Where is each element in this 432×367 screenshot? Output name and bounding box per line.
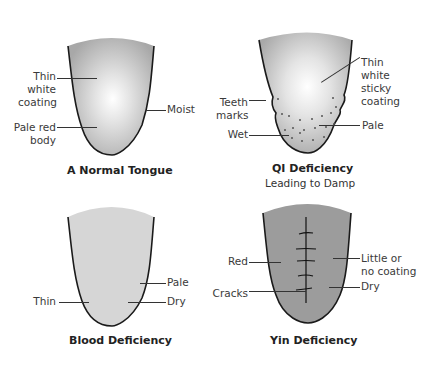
diagram-title: QI Deficiency [272,162,353,175]
leader-line [249,262,281,263]
label-dry: Dry [167,295,186,308]
leader-line [57,78,97,79]
leader-line [329,287,360,288]
leader-line [319,125,360,126]
label-cracks: Cracks [210,287,248,300]
label-moist: Moist [167,103,195,116]
diagram-title: Yin Deficiency [270,334,357,347]
leader-line [145,110,166,111]
label-thin: Thin [20,295,56,308]
leader-line [128,302,166,303]
qi-deficiency-panel: Teeth marks Wet Thin white sticky coatin… [216,0,432,183]
label-wet: Wet [221,128,248,141]
leader-line [57,127,97,128]
leader-line [249,291,306,292]
yin-deficiency-panel: Red Cracks Little or no coating Dry Yin … [216,183,432,367]
label-thin-white-sticky-coating: Thin white sticky coating [361,56,400,108]
leader-line [140,283,166,284]
diagram-title: Blood Deficiency [69,334,172,347]
label-thin-white-coating: Thin white coating [18,70,56,109]
label-red: Red [224,255,248,268]
label-little-or-no-coating: Little or no coating [361,252,416,278]
label-pale: Pale [362,119,384,132]
normal-tongue-panel: Thin white coating Pale red body Moist A… [0,0,216,183]
label-pale-red-body: Pale red body [10,121,56,147]
leader-line [333,258,360,259]
leader-line [59,302,89,303]
label-dry: Dry [361,280,380,293]
label-pale: Pale [167,276,189,289]
blood-deficiency-panel: Thin Pale Dry Blood Deficiency [0,183,216,367]
label-teeth-marks: Teeth marks [216,96,248,122]
leader-line [249,100,266,101]
leader-line [249,135,289,136]
diagram-title: A Normal Tongue [67,164,173,177]
